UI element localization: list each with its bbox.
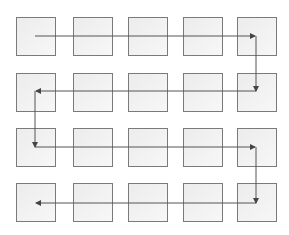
snake-grid-diagram — [0, 0, 289, 235]
traversal-arrows — [0, 0, 289, 235]
